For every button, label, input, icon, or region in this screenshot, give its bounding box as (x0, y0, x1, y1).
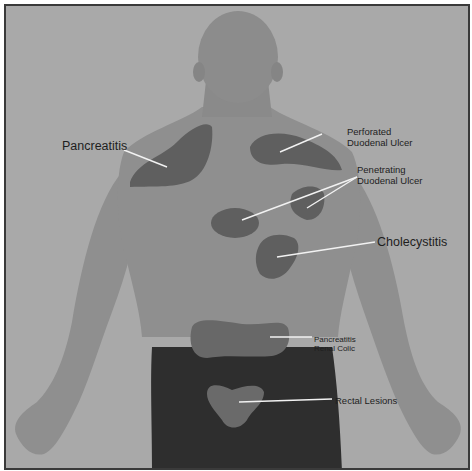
figure-frame: Pancreatitis Perforated Duodenal Ulcer P… (4, 4, 470, 470)
label-pancreatitis-renal-colic: Pancreatitis Renal Colic (314, 335, 356, 353)
pain-region-renal (191, 320, 290, 358)
label-perforated-duodenal-ulcer: Perforated Duodenal Ulcer (347, 127, 412, 149)
pain-region-penetrating-ulcer-center (211, 208, 259, 238)
label-penetrating-duodenal-ulcer: Penetrating Duodenal Ulcer (357, 165, 422, 187)
right-ear (271, 62, 283, 82)
head (198, 11, 278, 103)
label-rectal-lesions: Rectal Lesions (335, 396, 397, 407)
label-cholecystitis: Cholecystitis (377, 235, 447, 249)
left-ear (193, 62, 205, 82)
label-pancreatitis: Pancreatitis (62, 139, 127, 153)
